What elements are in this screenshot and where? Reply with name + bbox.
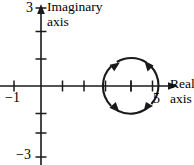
- contour-arc-upper-right: [117, 58, 147, 62]
- real-axis-label-line1: Real: [170, 76, 194, 91]
- imaginary-axis-arrowhead: [37, 4, 45, 14]
- real-axis-group: [0, 82, 178, 90]
- contour-arrowhead-top-right: [144, 61, 153, 72]
- complex-plane-figure: Imaginaryaxis Realaxis 3 −1 −3 5: [0, 0, 194, 165]
- contour-arc-lower-left: [118, 108, 148, 114]
- imaginary-axis-label-line2: axis: [47, 14, 69, 29]
- imaginary-axis-label: Imaginaryaxis: [47, 0, 102, 29]
- imaginary-axis-label-line1: Imaginary: [47, 0, 102, 14]
- real-axis-label-line2: axis: [170, 91, 192, 106]
- contour-arrowhead-bottom-left: [109, 102, 119, 113]
- real-tick-label-neg1: −1: [5, 90, 20, 106]
- real-axis-label: Realaxis: [170, 76, 194, 106]
- imag-tick-label-neg3: −3: [16, 147, 31, 163]
- imag-tick-label-3: 3: [26, 0, 33, 16]
- imaginary-axis-group: [37, 4, 45, 165]
- contour-center-label: 5: [153, 91, 160, 107]
